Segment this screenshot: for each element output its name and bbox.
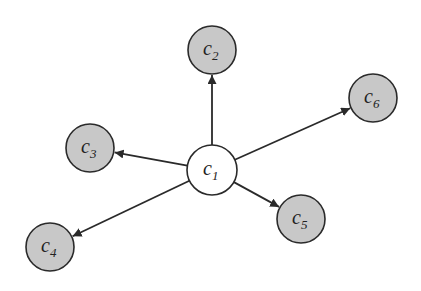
node-c6: c6 (349, 74, 397, 122)
node-c2: c2 (188, 26, 236, 74)
node-c1: c1 (187, 145, 237, 195)
nodes-layer: c1c2c3c4c5c6 (26, 26, 397, 271)
node-c3: c3 (66, 124, 114, 172)
edge-c1-c6 (235, 108, 350, 160)
edge-c1-c3 (115, 152, 188, 165)
node-c4: c4 (26, 223, 74, 271)
star-diagram: c1c2c3c4c5c6 (0, 0, 421, 291)
diagram-canvas: c1c2c3c4c5c6 (0, 0, 421, 291)
node-c5: c5 (277, 195, 325, 243)
edge-c1-c4 (73, 181, 190, 237)
edge-c1-c5 (234, 182, 279, 207)
